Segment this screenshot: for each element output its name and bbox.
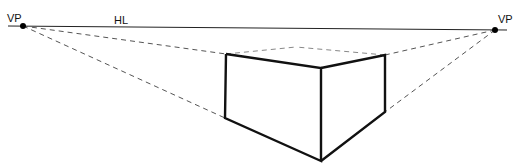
diagram-canvas: VP VP HL xyxy=(0,0,517,166)
horizon-label: HL xyxy=(114,14,128,26)
box-left-face xyxy=(225,54,321,161)
box-right-face xyxy=(321,55,385,161)
perspective-diagram: VP VP HL xyxy=(0,0,517,166)
vp-right-label: VP xyxy=(498,13,513,25)
vp-left-label: VP xyxy=(7,12,22,24)
guide-lines-right xyxy=(296,30,495,112)
vanishing-point-right xyxy=(492,27,498,33)
guide-lines-left xyxy=(23,26,296,118)
horizon-line xyxy=(8,26,507,30)
box xyxy=(225,54,385,161)
